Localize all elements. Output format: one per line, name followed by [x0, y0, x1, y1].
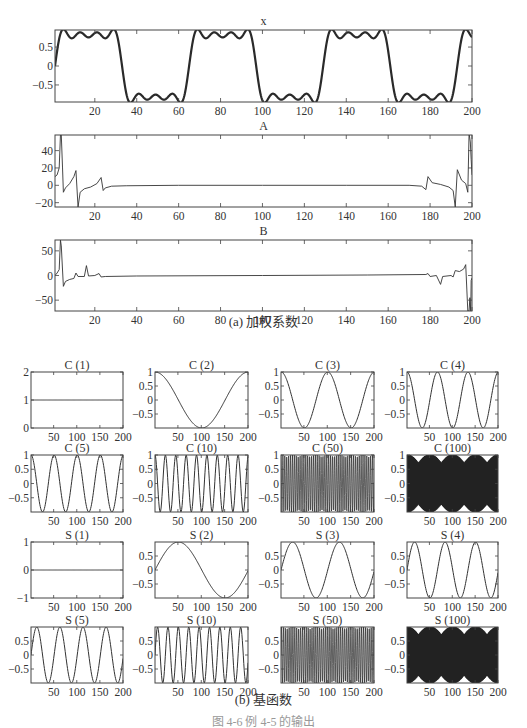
y-tick-label: −0.5 — [132, 663, 153, 675]
plot-title: x — [261, 14, 267, 28]
x-tick-label: 50 — [424, 601, 436, 613]
plot-title: S (10) — [187, 613, 217, 627]
plot-C4: 50100150200−0.500.51C (4) — [384, 358, 507, 443]
x-tick-label: 20 — [89, 105, 101, 117]
plot-C10: 50100150200−0.500.51C (10) — [132, 441, 257, 527]
x-tick-label: 200 — [114, 515, 132, 527]
y-tick-label: 1 — [23, 449, 29, 461]
plot-title: C (4) — [440, 358, 465, 372]
y-tick-label: −0.5 — [132, 408, 153, 420]
y-tick-label: 0.5 — [15, 463, 30, 475]
y-tick-label: 0.5 — [139, 380, 154, 392]
x-tick-label: 50 — [172, 601, 184, 613]
figure: 20406080100120140160180200−0.500.5x20406… — [0, 0, 527, 728]
y-tick-label: 0 — [23, 649, 29, 661]
x-tick-label: 150 — [467, 515, 485, 527]
y-tick-label: −0.5 — [8, 492, 29, 504]
x-tick-label: 200 — [489, 431, 507, 443]
plot-S3: 50100150200−0.500.5S (3) — [258, 528, 383, 613]
x-tick-label: 200 — [463, 210, 481, 222]
x-tick-label: 100 — [254, 210, 272, 222]
y-tick-label: −0.5 — [132, 578, 153, 590]
y-tick-label: 1 — [147, 449, 153, 461]
y-tick-label: −0.5 — [32, 79, 53, 91]
plot-title: C (3) — [315, 358, 340, 372]
y-tick-label: 0 — [273, 394, 279, 406]
data-line-S4 — [407, 542, 498, 598]
y-tick-label: −1 — [17, 592, 29, 604]
plot-title: S (4) — [441, 528, 465, 542]
x-tick-label: 150 — [342, 515, 360, 527]
x-tick-label: 50 — [298, 515, 310, 527]
data-line-S3 — [281, 542, 374, 598]
caption-part-b: (b) 基函数 — [0, 689, 527, 708]
data-line-B — [55, 240, 472, 311]
y-tick-label: 1 — [399, 449, 405, 461]
data-line-S100 — [407, 627, 498, 683]
plot-C2: 50100150200−0.500.51C (2) — [132, 358, 257, 443]
plot-S4: 50100150200−0.500.5S (4) — [384, 528, 507, 613]
x-tick-label: 50 — [298, 601, 310, 613]
y-tick-label: 1 — [273, 366, 279, 378]
y-tick-label: 0 — [399, 394, 405, 406]
plot-S5: 50100150200−0.500.5S (5) — [8, 613, 132, 698]
x-tick-label: 120 — [296, 210, 314, 222]
data-line-C5 — [31, 455, 123, 512]
x-tick-label: 50 — [172, 515, 184, 527]
y-tick-label: 0.5 — [139, 550, 154, 562]
x-tick-label: 160 — [380, 105, 398, 117]
x-tick-label: 200 — [365, 431, 383, 443]
x-tick-label: 150 — [216, 431, 234, 443]
data-line-S10 — [155, 627, 248, 683]
x-tick-label: 100 — [444, 515, 462, 527]
x-tick-label: 150 — [342, 601, 360, 613]
y-tick-label: −0.5 — [258, 408, 279, 420]
y-tick-label: 0.5 — [265, 550, 280, 562]
axes-box — [155, 372, 248, 428]
x-tick-label: 50 — [424, 515, 436, 527]
x-tick-label: 180 — [421, 105, 439, 117]
y-tick-label: −20 — [35, 197, 53, 209]
plot-title: S (3) — [316, 528, 340, 542]
data-line-C3 — [281, 372, 374, 428]
y-tick-label: 0 — [23, 422, 29, 434]
x-tick-label: 50 — [48, 431, 60, 443]
y-tick-label: 0.5 — [139, 463, 154, 475]
plot-C3: 50100150200−0.500.51C (3) — [258, 358, 383, 443]
data-line-C10 — [155, 455, 248, 512]
x-tick-label: 50 — [172, 431, 184, 443]
x-tick-label: 120 — [296, 105, 314, 117]
y-tick-label: 0 — [273, 649, 279, 661]
x-tick-label: 140 — [338, 210, 356, 222]
x-tick-label: 100 — [319, 515, 337, 527]
plot-title: S (1) — [65, 528, 89, 542]
y-tick-label: 0.5 — [391, 635, 406, 647]
y-tick-label: −0.5 — [258, 492, 279, 504]
y-tick-label: 1 — [147, 366, 153, 378]
y-tick-label: 0 — [47, 60, 53, 72]
plot-title: C (10) — [186, 441, 217, 455]
data-line-S5 — [31, 627, 123, 683]
x-tick-label: 100 — [68, 515, 86, 527]
y-tick-label: 0 — [47, 270, 53, 282]
y-tick-label: 0 — [23, 564, 29, 576]
y-tick-label: 0.5 — [39, 41, 54, 53]
plot-title: S (2) — [190, 528, 214, 542]
y-tick-label: 0.5 — [15, 635, 30, 647]
y-tick-label: 50 — [42, 245, 54, 257]
plot-title: C (2) — [189, 358, 214, 372]
y-tick-label: −0.5 — [384, 492, 405, 504]
y-tick-label: 20 — [42, 162, 54, 174]
y-tick-label: −0.5 — [8, 663, 29, 675]
y-tick-label: 0 — [273, 564, 279, 576]
data-line-x — [55, 29, 472, 103]
y-tick-label: 0 — [399, 649, 405, 661]
y-tick-label: 1 — [273, 449, 279, 461]
x-tick-label: 80 — [215, 105, 227, 117]
axes-box — [407, 372, 498, 428]
x-tick-label: 50 — [48, 515, 60, 527]
data-line-C4 — [407, 372, 498, 428]
x-tick-label: 200 — [239, 431, 257, 443]
x-tick-label: 150 — [91, 515, 109, 527]
y-tick-label: −0.5 — [384, 578, 405, 590]
